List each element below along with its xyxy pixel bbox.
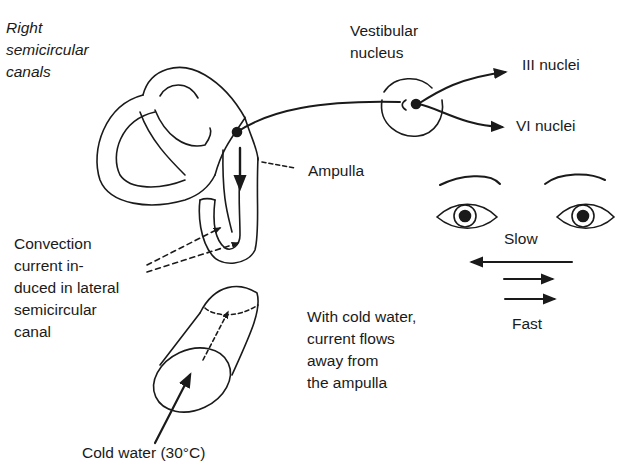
convection-label: Convection current in- duced in lateral … xyxy=(14,233,119,343)
ear-canal-cylinder-icon xyxy=(143,287,258,425)
cold-water-label: Cold water (30°C) xyxy=(82,442,205,464)
vi-nuclei-label: VI nuclei xyxy=(516,115,575,137)
cold-water-arrow xyxy=(155,375,190,443)
slow-label: Slow xyxy=(504,228,538,250)
left-eyebrow-icon xyxy=(440,176,500,185)
right-canals-label: Right semicircular canals xyxy=(6,17,89,83)
cold-water-note-label: With cold water, current flows away from… xyxy=(307,306,416,394)
semicircular-canals-icon xyxy=(97,68,258,264)
ampulla-label: Ampulla xyxy=(308,160,364,182)
iii-nuclei-label: III nuclei xyxy=(522,54,580,76)
left-eye-icon xyxy=(437,204,497,228)
vestibular-nucleus-icon xyxy=(382,79,443,137)
fast-label: Fast xyxy=(512,313,542,335)
arrow-to-vi-nuclei xyxy=(418,104,502,127)
right-eyebrow-icon xyxy=(545,174,605,184)
vestibular-nucleus-label: Vestibular nucleus xyxy=(350,20,418,64)
right-eye-icon xyxy=(557,204,614,228)
vestibular-nerve-line xyxy=(237,102,400,132)
